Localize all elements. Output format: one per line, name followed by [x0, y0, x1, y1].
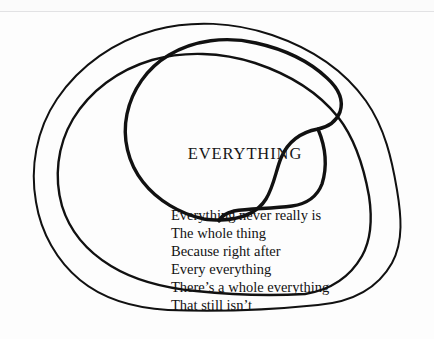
poem-line: Everything never really is: [171, 206, 421, 224]
poem-line: Every everything: [171, 260, 421, 278]
center-word-everything: EVERYTHING: [0, 144, 434, 164]
poem-line: There’s a whole everything: [171, 278, 421, 296]
poem-line: That still isn’t: [171, 296, 421, 314]
poem-line: Because right after: [171, 242, 421, 260]
poem-line: The whole thing: [171, 224, 421, 242]
spiral-poem-artwork: EVERYTHING Everything never really is Th…: [0, 0, 434, 339]
spiral-inner-coil: [125, 40, 341, 220]
poem-text-block: Everything never really is The whole thi…: [171, 206, 421, 314]
